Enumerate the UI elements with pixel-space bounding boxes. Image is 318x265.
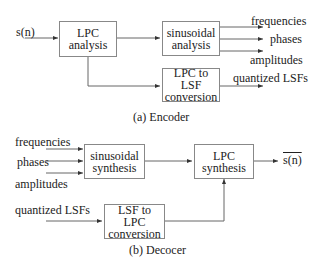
lpc-analysis-block: LPC analysis (59, 21, 117, 57)
decoder-caption: (b) Decocer (129, 243, 186, 258)
encoder-input-label: s(n) (16, 26, 35, 38)
dec-quantized-lsfs-label: quantized LSFs (15, 204, 90, 216)
decoder-output-label: s(n) (283, 154, 302, 166)
block-line: LSF to (118, 204, 151, 216)
lpc-synthesis-block: LPC synthesis (194, 144, 254, 179)
block-line: LPC (213, 150, 235, 162)
encoder-caption: (a) Encoder (133, 110, 189, 125)
lpc-to-lsf-block: LPC to LSF conversion (162, 68, 220, 102)
block-line: sinusoidal (167, 27, 216, 39)
block-line: conversion (108, 228, 161, 240)
block-line: conversion (165, 91, 218, 103)
enc-frequencies-label: frequencies (251, 15, 306, 27)
sinusoidal-analysis-block: sinusoidal analysis (162, 21, 220, 56)
sinusoidal-synthesis-block: sinusoidal synthesis (84, 144, 145, 179)
block-line: synthesis (92, 162, 136, 174)
lsf-to-lpc-block: LSF to LPC conversion (104, 204, 165, 239)
dec-phases-label: phases (17, 156, 49, 168)
block-line: analysis (172, 39, 211, 51)
dec-amplitudes-label: amplitudes (15, 178, 68, 190)
block-line: LPC (123, 216, 145, 228)
dec-frequencies-label: frequencies (15, 136, 70, 148)
enc-quantized-lsfs-label: quantized LSFs (233, 72, 308, 84)
enc-amplitudes-label: amplitudes (250, 54, 303, 66)
enc-phases-label: phases (270, 33, 302, 45)
block-line: synthesis (202, 162, 246, 174)
block-line: sinusoidal (90, 150, 139, 162)
output-signal: s(n) (283, 153, 302, 167)
block-line: analysis (69, 39, 108, 51)
